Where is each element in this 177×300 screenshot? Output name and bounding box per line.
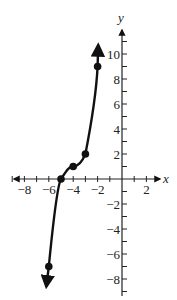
data-point [69,163,77,171]
y-tick-label: −2 [106,197,120,212]
x-tick-label: 2 [143,182,150,197]
data-point [45,263,53,271]
y-axis-label: y [116,10,124,25]
x-tick-label: −4 [66,182,80,197]
data-point [82,150,90,158]
y-tick-label: −4 [106,222,120,237]
y-tick-label: 8 [114,72,121,87]
x-axis: −8−6−4−22 x [12,171,169,197]
x-tick-label: −6 [42,182,56,197]
y-axis: −8−6−4−2246810 y [106,10,127,296]
y-tick-label: 6 [114,97,121,112]
y-tick-label: 4 [114,122,121,137]
y-tick-label: −8 [106,272,120,287]
y-tick-label: −6 [106,247,120,262]
data-point [57,175,65,183]
x-tick-label: −8 [17,182,31,197]
x-axis-label: x [162,171,169,186]
function-curve [45,45,101,286]
data-point [94,63,102,71]
y-tick-label: 2 [114,147,121,162]
function-graph: −8−6−4−22 x −8−6−4−2246810 y [0,0,177,300]
x-tick-label: −2 [91,182,105,197]
data-points [45,63,101,271]
y-tick-label: 10 [107,47,120,62]
